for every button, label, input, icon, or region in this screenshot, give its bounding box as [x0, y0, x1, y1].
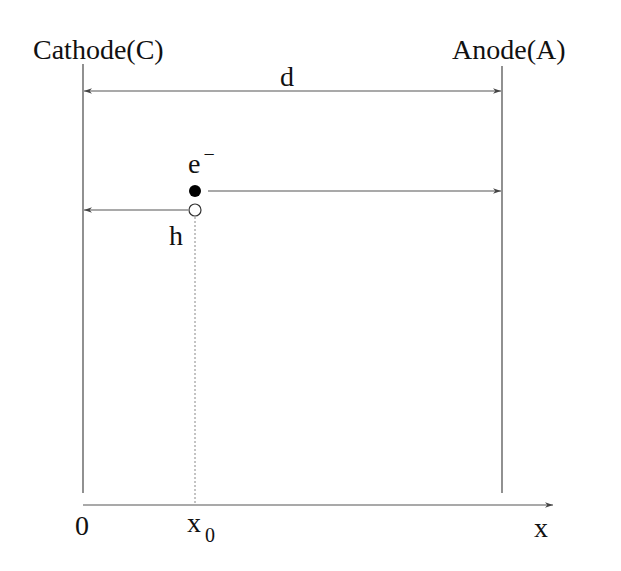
x0-label: x0	[187, 509, 215, 537]
electron-label: e−	[188, 150, 215, 178]
hole-dot	[189, 204, 201, 216]
origin-label: 0	[75, 512, 89, 540]
diagram-canvas	[0, 0, 621, 571]
electron-charge: −	[203, 143, 214, 165]
x0-subscript: 0	[205, 524, 215, 546]
gap-label: d	[280, 63, 294, 91]
x-axis-label: x	[534, 514, 548, 542]
anode-label: Anode(A)	[452, 36, 566, 64]
hole-label: h	[169, 222, 183, 250]
cathode-label: Cathode(C)	[33, 36, 164, 64]
x0-symbol: x	[187, 507, 201, 538]
electron-symbol: e	[188, 148, 200, 179]
electron-dot	[189, 185, 201, 197]
